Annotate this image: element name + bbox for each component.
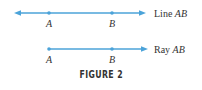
- arrow-right-icon: [139, 10, 146, 15]
- point-a-dot: [47, 11, 51, 15]
- point-b-dot: [110, 11, 114, 15]
- point-a-label: A: [45, 18, 53, 29]
- ray-label: Ray AB: [154, 44, 185, 55]
- arrow-right-icon: [141, 46, 148, 51]
- line-label: Line AB: [154, 8, 187, 19]
- ray-ab: A B Ray AB: [45, 44, 185, 65]
- arrow-left-icon: [14, 10, 21, 15]
- point-a-label: A: [45, 54, 53, 65]
- point-a-dot: [47, 47, 51, 51]
- point-b-label: B: [109, 18, 115, 29]
- point-b-label: B: [109, 54, 115, 65]
- line-ab: A B Line AB: [14, 8, 187, 29]
- figure-caption: FIGURE 2: [22, 69, 180, 80]
- point-b-dot: [110, 47, 114, 51]
